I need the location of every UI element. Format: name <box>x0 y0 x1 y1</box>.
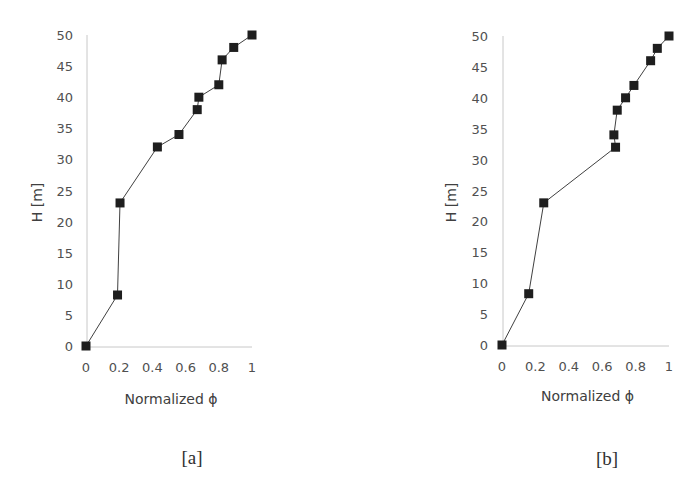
y-tick-label: 25 <box>471 184 488 199</box>
y-tick-label: 20 <box>471 214 488 229</box>
y-tick-label: 25 <box>56 184 73 199</box>
y-axis-title: H [m] <box>443 183 459 223</box>
y-tick-label: 20 <box>56 215 73 230</box>
panel-label: [b] <box>596 448 618 469</box>
data-point-marker <box>539 198 548 207</box>
data-point-marker <box>524 289 533 298</box>
y-tick-label: 30 <box>471 153 488 168</box>
data-point-marker <box>153 142 162 151</box>
y-tick-label: 30 <box>56 152 73 167</box>
x-axis-title: Normalized ϕ <box>541 388 634 404</box>
y-tick-label: 10 <box>56 277 73 292</box>
data-point-marker <box>611 143 620 152</box>
x-tick-label: 1 <box>248 360 256 375</box>
data-point-marker <box>248 31 257 40</box>
series-line <box>502 36 669 345</box>
data-point-marker <box>113 290 122 299</box>
chart-panel-a: 0510152025303540455000.20.40.60.81Normal… <box>29 28 257 468</box>
data-point-marker <box>174 130 183 139</box>
y-tick-label: 10 <box>471 276 488 291</box>
data-point-marker <box>653 44 662 53</box>
y-tick-label: 0 <box>65 339 73 354</box>
data-point-marker <box>229 43 238 52</box>
data-point-marker <box>82 342 91 351</box>
series-line <box>86 35 252 346</box>
x-tick-label: 0 <box>498 359 506 374</box>
y-tick-label: 0 <box>480 338 488 353</box>
x-tick-label: 0.4 <box>558 359 579 374</box>
x-tick-label: 0.8 <box>208 360 229 375</box>
x-tick-label: 0.6 <box>175 360 196 375</box>
panel-label: [a] <box>181 447 202 468</box>
y-tick-label: 45 <box>56 59 73 74</box>
data-point-marker <box>646 56 655 65</box>
y-tick-label: 5 <box>65 308 73 323</box>
data-point-marker <box>116 198 125 207</box>
x-tick-label: 0 <box>82 360 90 375</box>
chart-panel-b: 0510152025303540455000.20.40.60.81Normal… <box>443 29 674 469</box>
data-point-marker <box>613 106 622 115</box>
y-tick-label: 5 <box>480 307 488 322</box>
data-point-marker <box>621 93 630 102</box>
y-tick-label: 45 <box>471 60 488 75</box>
y-tick-label: 35 <box>56 121 73 136</box>
x-tick-label: 1 <box>665 359 673 374</box>
x-tick-label: 0.2 <box>525 359 546 374</box>
y-tick-label: 40 <box>471 91 488 106</box>
y-tick-label: 35 <box>471 122 488 137</box>
data-point-marker <box>194 93 203 102</box>
data-point-marker <box>214 80 223 89</box>
y-tick-label: 15 <box>471 245 488 260</box>
x-tick-label: 0.2 <box>109 360 130 375</box>
x-axis-title: Normalized ϕ <box>124 391 217 407</box>
y-tick-label: 50 <box>471 29 488 44</box>
y-axis-title: H [m] <box>29 183 45 223</box>
data-point-marker <box>193 105 202 114</box>
figure: 0510152025303540455000.20.40.60.81Normal… <box>0 0 698 489</box>
y-tick-label: 40 <box>56 90 73 105</box>
data-point-marker <box>218 55 227 64</box>
data-point-marker <box>629 81 638 90</box>
x-tick-label: 0.8 <box>625 359 646 374</box>
data-point-marker <box>665 32 674 41</box>
x-tick-label: 0.6 <box>592 359 613 374</box>
data-point-marker <box>609 130 618 139</box>
data-point-marker <box>498 341 507 350</box>
y-tick-label: 50 <box>56 28 73 43</box>
y-tick-label: 15 <box>56 246 73 261</box>
x-tick-label: 0.4 <box>142 360 163 375</box>
